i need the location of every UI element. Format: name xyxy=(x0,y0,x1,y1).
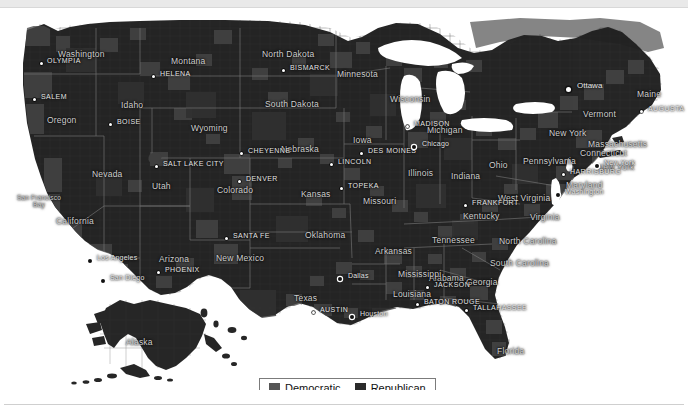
top-bar xyxy=(0,0,688,8)
legend-item-democratic[interactable]: Democratic xyxy=(269,382,341,390)
legend-item-republican[interactable]: Republican xyxy=(355,382,426,390)
us-election-map[interactable]: WashingtonOregonIdahoMontanaWyomingNorth… xyxy=(0,8,688,390)
legend-swatch-democratic xyxy=(269,383,280,391)
map-page: WashingtonOregonIdahoMontanaWyomingNorth… xyxy=(0,0,688,419)
map-geometry xyxy=(0,8,688,390)
map-legend[interactable]: Democratic Republican xyxy=(259,378,436,390)
legend-swatch-republican xyxy=(355,383,366,391)
bottom-divider xyxy=(4,404,684,405)
legend-label-democratic: Democratic xyxy=(285,382,341,390)
legend-label-republican: Republican xyxy=(371,382,426,390)
